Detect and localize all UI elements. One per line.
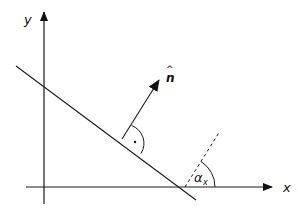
right-angle-dot	[134, 141, 136, 143]
normal-vector-arrow	[122, 80, 159, 139]
alpha-angle-label: α x	[194, 170, 208, 187]
alpha-subscript: x	[202, 178, 208, 187]
normal-vector-hat: ^	[166, 64, 174, 74]
y-axis-label: y	[23, 12, 32, 27]
x-axis-label: x	[282, 180, 291, 195]
straight-line	[16, 66, 196, 200]
alpha-symbol: α	[194, 170, 203, 185]
right-angle-arc	[132, 126, 144, 154]
diagram-canvas: y x n ^ α x	[0, 0, 298, 216]
normal-vector-label: n ^	[166, 64, 175, 85]
